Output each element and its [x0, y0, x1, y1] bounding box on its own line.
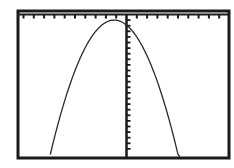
graph-plot — [0, 0, 234, 168]
window-background — [0, 0, 234, 168]
calculator-graph-screen — [0, 0, 234, 168]
